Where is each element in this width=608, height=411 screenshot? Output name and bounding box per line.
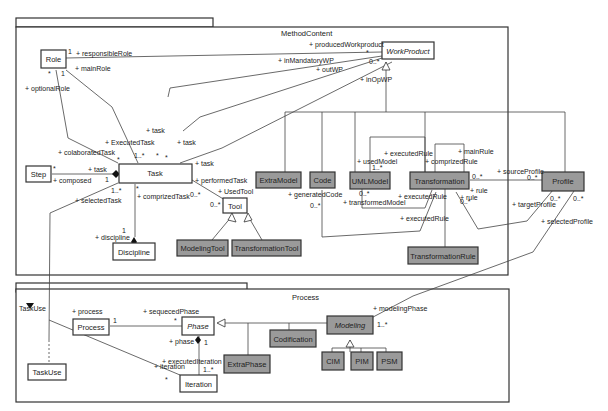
class-process[interactable]: Process: [73, 319, 109, 335]
svg-text:Code: Code: [314, 176, 332, 185]
svg-text:Step: Step: [31, 170, 46, 179]
svg-text:0..*: 0..*: [573, 195, 584, 202]
svg-text:+ executedRule: + executedRule: [384, 150, 433, 157]
svg-text:+ modelingPhase: + modelingPhase: [373, 305, 427, 313]
svg-text:PIM: PIM: [355, 357, 368, 366]
svg-text:PSM: PSM: [381, 357, 397, 366]
svg-text:WorkProduct: WorkProduct: [386, 47, 430, 56]
svg-text:*: *: [165, 154, 168, 161]
svg-text:ExtraPhase: ExtraPhase: [228, 360, 267, 369]
svg-text:*: *: [136, 185, 139, 192]
class-task[interactable]: Task: [119, 164, 192, 183]
svg-text:1: 1: [122, 227, 126, 234]
svg-text:1..*: 1..*: [111, 187, 122, 194]
svg-text:Task: Task: [147, 169, 163, 178]
svg-text:0..*: 0..*: [359, 190, 370, 197]
svg-text:+ process: + process: [72, 308, 103, 316]
svg-text:Discipline: Discipline: [118, 248, 150, 257]
svg-text:1: 1: [113, 317, 117, 324]
svg-text:*: *: [366, 49, 369, 56]
svg-text:1: 1: [105, 176, 109, 183]
class-psm[interactable]: PSM: [377, 352, 402, 370]
class-taskuse[interactable]: TaskUse: [28, 364, 66, 380]
svg-text:*: *: [156, 152, 159, 159]
svg-text:0..*: 0..*: [527, 174, 538, 181]
svg-text:Iteration: Iteration: [185, 380, 212, 389]
svg-text:TransformationTool: TransformationTool: [235, 244, 299, 253]
svg-text:1..*: 1..*: [203, 366, 214, 373]
svg-text:+ phase: + phase: [169, 338, 194, 346]
svg-text:+ mainRule: + mainRule: [458, 148, 494, 155]
class-extraphase[interactable]: ExtraPhase: [224, 355, 270, 373]
class-discipline[interactable]: Discipline: [113, 243, 155, 260]
class-step[interactable]: Step: [26, 166, 51, 182]
svg-text:1: 1: [61, 70, 65, 77]
class-tool[interactable]: Tool: [223, 198, 247, 213]
svg-text:+ executedRule: + executedRule: [400, 215, 449, 222]
svg-text:ModelingTool: ModelingTool: [180, 244, 225, 253]
svg-text:+ targetProfile: + targetProfile: [512, 201, 556, 209]
class-umlmodel[interactable]: UMLModel: [350, 172, 390, 189]
svg-text:+ transformedModel: + transformedModel: [343, 199, 406, 206]
svg-text:CIM: CIM: [326, 357, 340, 366]
svg-text:0..*: 0..*: [210, 201, 221, 208]
class-profile[interactable]: Profile: [542, 172, 584, 191]
class-workproduct[interactable]: WorkProduct: [382, 42, 434, 59]
svg-text:+ comprizedTask: + comprizedTask: [137, 193, 190, 201]
class-code[interactable]: Code: [310, 172, 335, 188]
svg-text:1: 1: [68, 48, 72, 55]
svg-text:+ ExecutedTask: + ExecutedTask: [105, 139, 155, 146]
class-phase[interactable]: Phase: [182, 317, 214, 335]
svg-text:Codification: Codification: [273, 335, 312, 344]
package-process: Process: [16, 283, 509, 402]
svg-text:Process: Process: [77, 323, 104, 332]
svg-text:TaskUse: TaskUse: [33, 368, 62, 377]
svg-text:+ task: + task: [146, 127, 165, 134]
svg-text:*: *: [117, 156, 120, 163]
svg-text:1: 1: [204, 339, 208, 346]
svg-text:0..*: 0..*: [460, 198, 471, 205]
svg-text:+ performedTask: + performedTask: [195, 177, 248, 185]
svg-text:+ task: + task: [88, 166, 107, 173]
svg-text:*: *: [53, 165, 56, 172]
class-codification[interactable]: Codification: [270, 330, 316, 347]
svg-text:1..*: 1..*: [377, 321, 388, 328]
svg-text:+ inOpWP: + inOpWP: [360, 76, 392, 84]
svg-text:Profile: Profile: [552, 177, 573, 186]
svg-text:Transformation: Transformation: [414, 177, 464, 186]
svg-text:+ executedRule: + executedRule: [398, 193, 447, 200]
svg-text:+ optionalRole: + optionalRole: [25, 85, 70, 93]
svg-text:TransformationRule: TransformationRule: [410, 252, 476, 261]
svg-text:Modeling: Modeling: [335, 321, 366, 330]
package-title: Process: [292, 293, 319, 302]
class-modeling[interactable]: Modeling: [327, 316, 373, 334]
class-transformationtool[interactable]: TransformationTool: [232, 240, 301, 256]
svg-text:+ composed: + composed: [53, 177, 91, 185]
class-transformation[interactable]: Transformation: [410, 172, 469, 189]
svg-text:+ sequecedPhase: + sequecedPhase: [143, 308, 199, 316]
svg-text:*: *: [165, 376, 168, 383]
class-transformationrule[interactable]: TransformationRule: [408, 247, 478, 264]
class-iteration[interactable]: Iteration: [180, 375, 217, 392]
svg-text:Phase: Phase: [187, 322, 208, 331]
class-role[interactable]: Role: [41, 50, 66, 68]
svg-text:+ task: + task: [177, 139, 196, 146]
svg-text:+ comprizedRule: + comprizedRule: [425, 158, 478, 166]
svg-text:+ iteration: + iteration: [154, 363, 185, 370]
svg-text:*: *: [48, 70, 51, 77]
svg-text:+ rule: + rule: [470, 187, 488, 194]
svg-text:0..*: 0..*: [550, 195, 561, 202]
svg-text:+ producedWorkproduct: + producedWorkproduct: [309, 41, 384, 49]
svg-text:+ inMandatoryWP: + inMandatoryWP: [278, 57, 334, 65]
svg-text:*: *: [174, 317, 177, 324]
svg-text:+ task: + task: [195, 160, 214, 167]
svg-text:+ UsedTool: + UsedTool: [218, 188, 254, 195]
class-pim[interactable]: PIM: [351, 352, 373, 370]
class-extramodel[interactable]: ExtraModel: [256, 172, 301, 188]
class-modelingtool[interactable]: ModelingTool: [177, 240, 228, 256]
package-title: MethodContent: [281, 29, 333, 38]
class-cim[interactable]: CIM: [322, 352, 344, 370]
svg-text:+ discipline: + discipline: [95, 234, 130, 242]
svg-text:1..*: 1..*: [372, 164, 383, 171]
svg-text:0..*: 0..*: [310, 202, 321, 209]
